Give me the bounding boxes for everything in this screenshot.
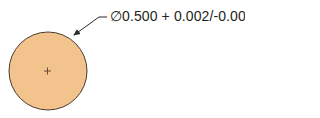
leader-line [74,17,107,35]
diameter-tolerance-label: ∅0.500 + 0.002/-0.004 [110,8,245,24]
